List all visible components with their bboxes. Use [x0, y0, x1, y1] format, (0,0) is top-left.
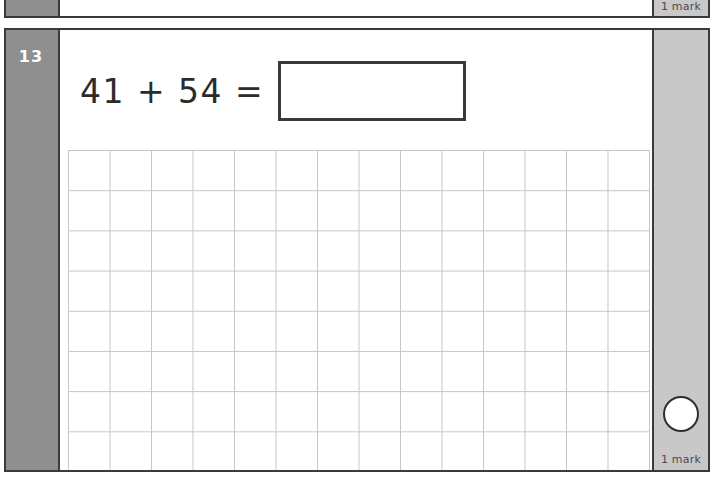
previous-question-block: 1 mark	[4, 0, 710, 18]
equation-row: 41 + 54 =	[80, 58, 466, 124]
previous-question-number-rail	[6, 0, 60, 16]
question-block: 13 41 + 54 = 1 mark	[4, 28, 710, 472]
question-number-rail: 13	[6, 30, 60, 470]
question-mark-label: 1 mark	[654, 453, 708, 466]
equation-text: 41 + 54 =	[80, 75, 264, 108]
question-mark-rail: 1 mark	[652, 30, 708, 470]
mark-circle[interactable]	[663, 396, 699, 432]
exam-page: 1 mark 13 41 + 54 = 1 mark	[0, 0, 713, 478]
answer-input-box[interactable]	[278, 61, 466, 121]
previous-question-mark-label: 1 mark	[654, 0, 708, 13]
previous-question-mark-rail: 1 mark	[652, 0, 708, 16]
question-content: 41 + 54 =	[62, 30, 650, 470]
question-number: 13	[6, 47, 56, 66]
working-out-grid	[68, 150, 650, 470]
